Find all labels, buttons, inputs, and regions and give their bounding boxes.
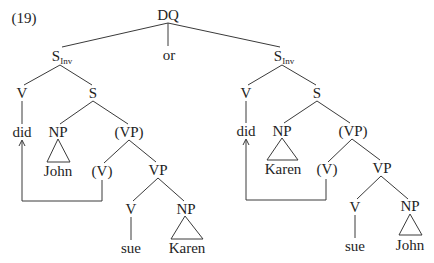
node-r-sinv: SInv (274, 49, 294, 66)
node-r-v-trace: (V) (317, 162, 338, 177)
node-l-did: did (12, 125, 31, 140)
branch-r-sinv-s (282, 65, 316, 85)
node-r-subject: Karen (265, 162, 302, 177)
node-l-np-subject: NP (48, 125, 67, 140)
branch-r-vp-np (381, 176, 408, 199)
node-r-np-object: NP (400, 199, 419, 214)
branch-r-s-np (284, 101, 317, 123)
branch-l-vp-np (158, 178, 184, 201)
branch-l-vp-vtrace (104, 140, 129, 163)
triangle-r-np-subject (267, 138, 298, 160)
node-r-s: S (313, 86, 321, 101)
branch-r-vp-vtrace (328, 139, 352, 162)
triangle-l-np-subject (47, 139, 70, 162)
node-r-did: did (236, 124, 255, 139)
branch-l-vp-vp (129, 140, 156, 162)
syntax-tree-diagram: (19) DQ or SInv V S did NP (VP) John (V)… (0, 0, 434, 263)
node-r-vp-trace: (VP) (338, 124, 367, 139)
node-l-sinv-subscript: Inv (60, 56, 72, 66)
branch-r-s-vp (317, 101, 350, 123)
triangle-r-np-object (399, 214, 422, 235)
node-l-s: S (89, 86, 97, 101)
branch-r-vp-v (357, 176, 381, 199)
node-r-v-inner: V (350, 200, 361, 215)
node-or: or (163, 48, 176, 63)
branch-l-s-vp (93, 101, 128, 124)
branch-r-sinv-v (248, 65, 282, 85)
node-l-v-trace: (V) (92, 164, 113, 179)
node-l-subject: John (44, 164, 72, 179)
branch-dq-sinv-left (62, 23, 168, 47)
node-l-np-object: NP (176, 202, 195, 217)
example-number: (19) (12, 11, 37, 26)
node-dq: DQ (157, 8, 179, 23)
node-l-vp-trace: (VP) (114, 125, 143, 140)
branch-dq-sinv-right (168, 23, 280, 47)
node-l-verb: sue (121, 241, 141, 256)
node-r-verb: sue (345, 239, 365, 254)
node-l-v: V (17, 86, 28, 101)
node-l-v-inner: V (126, 202, 137, 217)
branch-l-sinv-v (24, 65, 60, 85)
triangle-l-np-object (171, 216, 203, 239)
node-r-sinv-subscript: Inv (282, 56, 294, 66)
node-l-sinv: SInv (52, 49, 72, 66)
branch-l-vp-v (133, 178, 158, 201)
node-l-object: Karen (169, 241, 206, 256)
node-r-vp: VP (372, 161, 391, 176)
branch-r-vp-vp (352, 139, 380, 160)
node-r-np-subject: NP (272, 124, 291, 139)
node-l-vp: VP (148, 163, 167, 178)
branch-l-sinv-s (60, 65, 92, 85)
node-r-object: John (396, 238, 424, 253)
node-r-v: V (241, 86, 252, 101)
branch-l-s-np (60, 101, 93, 124)
